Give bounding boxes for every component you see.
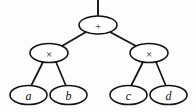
node-leaf-d[interactable]: d [150,86,187,105]
node-leaf-a[interactable]: a [10,86,47,105]
node-leaf-b-label: b [66,89,72,103]
node-left-times[interactable]: × [30,44,68,63]
edge-root-to-right-times [110,32,136,46]
edge-right-times-to-d [156,62,166,86]
edge-left-times-to-b [56,62,66,86]
node-leaf-c[interactable]: c [110,86,147,105]
node-root[interactable]: + [79,16,117,34]
expression-tree-diagram: + × × a b c d [0,0,196,112]
node-left-times-label: × [46,48,52,60]
edge-left-times-to-a [31,62,43,86]
node-leaf-a-label: a [26,89,32,103]
edge-right-times-to-c [131,62,143,86]
tree-canvas: + × × a b c d [0,0,196,112]
node-leaf-b[interactable]: b [50,86,87,105]
edge-root-to-left-times [62,32,86,46]
node-root-label: + [95,20,101,32]
node-right-times-label: × [146,48,152,60]
node-right-times[interactable]: × [130,44,168,63]
node-leaf-c-label: c [126,89,132,103]
node-leaf-d-label: d [166,89,173,103]
